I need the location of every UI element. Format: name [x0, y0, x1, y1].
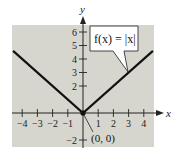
x-tick-label: −1 [62, 118, 73, 129]
y-axis-label: y [79, 3, 85, 15]
absolute-value-chart: −4−3−2−11234 −223456 x y (0, 0) f(x) = |… [0, 0, 179, 155]
x-tick-label: −4 [17, 118, 28, 129]
y-tick-label: 4 [72, 54, 77, 65]
callout-label: f(x) = |x| [94, 32, 136, 46]
x-axis-label: x [165, 107, 171, 119]
x-tick-label: 1 [96, 118, 101, 129]
x-axis-arrow-icon [156, 110, 164, 116]
y-tick-label: 2 [72, 81, 77, 92]
y-tick-label: 3 [72, 67, 77, 78]
x-tick-label: 4 [141, 118, 146, 129]
x-tick-label: −3 [32, 118, 43, 129]
x-tick-label: −2 [47, 118, 58, 129]
x-tick-label: 2 [111, 118, 116, 129]
origin-label: (0, 0) [91, 132, 115, 145]
y-tick-label: 6 [72, 27, 77, 38]
y-axis-arrow-icon [80, 16, 86, 24]
y-tick-label: 5 [72, 40, 77, 51]
origin-point [80, 110, 85, 115]
x-tick-label: 3 [126, 118, 131, 129]
y-tick-label: −2 [66, 135, 77, 146]
